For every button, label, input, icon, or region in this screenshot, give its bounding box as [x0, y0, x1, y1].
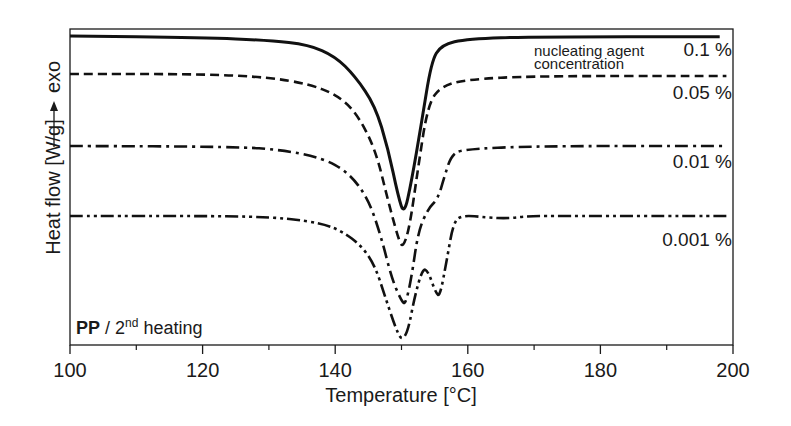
curve-001 [70, 146, 726, 303]
x-axis-title: Temperature [°C] [325, 384, 476, 406]
y-axis-title-group: Heat flow [W/g] [42, 119, 64, 255]
dsc-chart: 100120140160180200 0.1 %0.05 %0.01 %0.00… [0, 0, 791, 426]
legend-note-line2: concentration [534, 55, 624, 72]
x-tick-label: 100 [53, 359, 86, 381]
sample-annotation: PP / 2nd heating [76, 316, 202, 338]
series-label: 0.1 % [683, 39, 732, 60]
series-label: 0.01 % [673, 151, 732, 172]
dsc-curves [70, 36, 726, 338]
x-tick-label: 180 [584, 359, 617, 381]
x-tick-label: 120 [186, 359, 219, 381]
curve-005 [70, 74, 726, 245]
x-tick-label: 140 [319, 359, 352, 381]
y-axis-title: Heat flow [W/g] [42, 119, 64, 255]
x-tick-label: 200 [716, 359, 749, 381]
exo-label: exo [42, 61, 64, 93]
x-axis-tick-labels: 100120140160180200 [53, 359, 749, 381]
x-axis-ticks [70, 345, 733, 354]
arrow-head-icon [50, 101, 58, 111]
series-label: 0.001 % [662, 229, 732, 250]
series-labels: 0.1 %0.05 %0.01 %0.001 % [662, 39, 732, 250]
x-tick-label: 160 [451, 359, 484, 381]
series-label: 0.05 % [673, 82, 732, 103]
